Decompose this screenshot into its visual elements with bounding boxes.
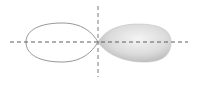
diagram-canvas [0, 0, 203, 91]
p-orbital-diagram [0, 0, 203, 91]
right-lobe [98, 24, 171, 62]
